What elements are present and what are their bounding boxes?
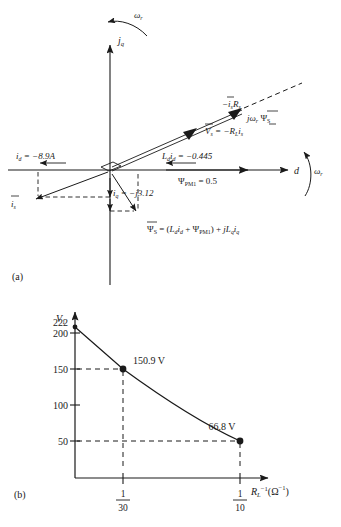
voltage-phasor-line-lower xyxy=(112,114,242,171)
chart-annotation-66-8: 66.8 V xyxy=(208,421,236,432)
iq-value-label: iq = −j3.12 xyxy=(113,188,154,199)
chart-y-tick-label-222: 222 xyxy=(53,317,68,328)
svg-text:is: is xyxy=(11,199,17,210)
omega-r-top-arc xyxy=(108,21,147,36)
svg-text:ΨS = (Ldid + ΨPM1) + jLqiq: ΨS = (Ldid + ΨPM1) + jLqiq xyxy=(147,224,239,235)
figure-container: jq d ωr ωr xyxy=(0,0,341,527)
chart-y-tick-label-50: 50 xyxy=(58,436,68,447)
chart-x-axis-title: RL−1(Ω−1) xyxy=(250,484,289,498)
chart-data-point-150-9 xyxy=(120,366,127,373)
chart-data-point-222 xyxy=(73,325,78,330)
svg-text:−isRs: −isRs xyxy=(222,99,241,110)
fraction-numerator: 1 xyxy=(121,489,126,499)
psi-pm1-value-label: ΨPM1 = 0.5 xyxy=(178,176,218,187)
omega-r-top-label: ωr xyxy=(134,10,143,21)
phasor-diagram: jq d ωr ωr xyxy=(8,10,323,285)
chart-annotation-150-9: 150.9 V xyxy=(133,355,166,366)
jq-axis-label: jq xyxy=(116,35,125,47)
ld-id-value-label: Ldid = −0.445 xyxy=(161,151,213,162)
d-axis-label: d xyxy=(294,165,300,176)
omega-r-right-label: ωr xyxy=(314,166,323,177)
omega-r-right-arc xyxy=(304,152,311,196)
chart-x-tick-label-1-30: 1 30 xyxy=(116,489,130,513)
figure-svg: jq d ωr ωr xyxy=(0,0,341,527)
chart-y-tick-label-100: 100 xyxy=(53,400,68,411)
is-vector-label: is xyxy=(11,196,19,210)
voltage-phasor-arrowhead-inner xyxy=(183,128,197,140)
vs-equation-label: Vs = −RLis xyxy=(205,124,276,137)
chart-y-tick-label-200: 200 xyxy=(53,328,68,339)
j-omega-psi-s-label: jωr ΨS xyxy=(246,111,278,124)
svg-text:jωr ΨS: jωr ΨS xyxy=(246,113,270,124)
voltage-phasor-dashed-extension xyxy=(244,83,302,108)
is-current-phasor xyxy=(36,172,108,199)
chart-data-point-66-8 xyxy=(237,438,244,445)
fraction-denominator: 10 xyxy=(235,503,245,513)
panel-a-label: (a) xyxy=(12,271,23,283)
chart-x-tick-label-1-10: 1 10 xyxy=(233,489,247,513)
fraction-numerator: 1 xyxy=(238,489,243,499)
minus-is-rs-label: −isRs xyxy=(222,97,241,110)
panel-b-label: (b) xyxy=(14,489,26,501)
voltage-vs-conductance-chart: V1 RL−1(Ω−1) 222 200 150 100 50 1 30 xyxy=(14,312,289,513)
chart-y-tick-label-150: 150 xyxy=(53,364,68,375)
psi-s-equation-label: ΨS = (Ldid + ΨPM1) + jLqiq xyxy=(147,222,239,235)
fraction-denominator: 30 xyxy=(118,503,128,513)
id-value-label: id = −8.9A xyxy=(16,151,55,162)
